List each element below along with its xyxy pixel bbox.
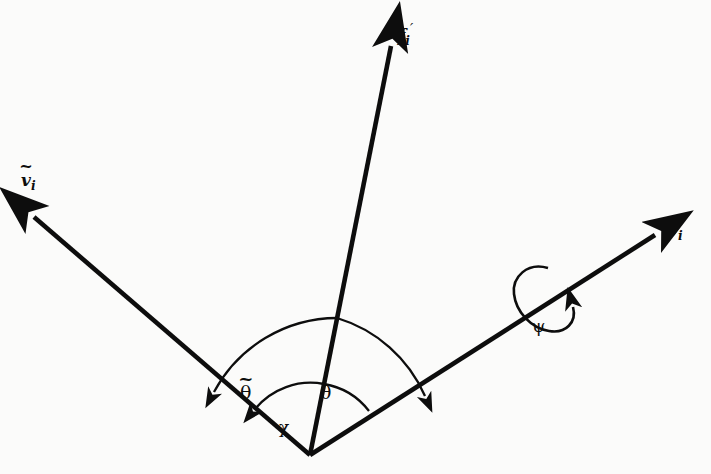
label-theta-tilde-group: ~θ: [240, 383, 251, 402]
label-psi: ψ: [532, 318, 545, 335]
vector-group: [34, 46, 655, 455]
tilde-accent-icon: ~: [19, 159, 33, 175]
theta-tilde-arc: [214, 318, 337, 392]
label-v-tilde-group: ~v: [21, 172, 31, 189]
tilde-accent-icon: ~: [238, 370, 253, 388]
label-v-tilde: ~vi: [21, 172, 36, 193]
v-vector: [310, 235, 655, 455]
label-theta-tilde: ~θ: [240, 383, 251, 402]
chi-arc: [255, 383, 324, 409]
label-chi: χ: [279, 419, 289, 436]
label-theta: θ: [320, 383, 331, 402]
label-v-base: v: [668, 220, 678, 240]
label-v: vi: [668, 222, 683, 243]
theta-arc: [337, 318, 425, 396]
diagram-canvas: [0, 0, 711, 474]
label-f-prime-mark: ′: [410, 21, 413, 37]
label-v-tilde-subscript: i: [31, 179, 36, 193]
vector-diagram: fi′ ~vi vi ψ ~θ θ χ: [0, 0, 711, 474]
label-f-prime: fi′: [398, 22, 413, 47]
label-v-subscript: i: [678, 229, 683, 243]
